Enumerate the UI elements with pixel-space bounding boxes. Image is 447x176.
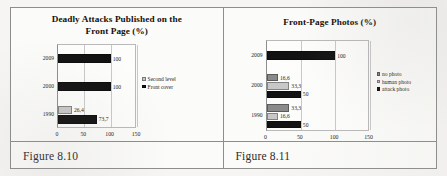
y-axis-tick-label: 2000: [237, 82, 263, 88]
x-axis-tick-label: 100: [324, 134, 344, 140]
bar-row: 50: [267, 121, 368, 128]
legend-swatch-icon: [377, 80, 381, 84]
legend-swatch-icon: [377, 87, 381, 91]
bar-row: 100: [58, 82, 135, 91]
chart-title-line: Deadly Attacks Published on the: [17, 14, 217, 26]
bar-value-label: 50: [301, 122, 309, 128]
bar-group: 100: [267, 41, 368, 71]
bar-row: 26,4: [58, 106, 135, 115]
bar-group: 100: [58, 73, 135, 101]
legend-label: Second level: [148, 76, 176, 82]
bar-value-label: 16,6: [278, 113, 290, 119]
x-axis-tick-label: 50: [290, 134, 310, 140]
y-axis-tick-label: 2009: [237, 52, 263, 58]
chart-front-page-photos: Front-Page Photos (%)10016,633,35033,316…: [224, 8, 437, 141]
legend-item[interactable]: human photo: [377, 79, 411, 85]
x-axis-tick-label: 100: [100, 131, 120, 137]
legend: no photohuman photoattack photo: [377, 71, 411, 92]
bar-value-label: 50: [301, 91, 309, 97]
bar-row: 50: [267, 91, 368, 98]
legend-label: no photo: [382, 71, 401, 77]
bar-value-label: 100: [111, 84, 121, 90]
x-axis-tick-label: 50: [73, 131, 93, 137]
legend-swatch-icon: [142, 77, 146, 81]
bar[interactable]: [267, 104, 290, 111]
x-axis-tick-label: 0: [256, 134, 276, 140]
legend-label: attack photo: [382, 86, 409, 92]
bar-group: 26,473,7: [58, 101, 135, 129]
y-axis-tick-label: 2000: [28, 83, 54, 89]
y-axis-tick-label: 1990: [28, 111, 54, 117]
figure-cell-right: Front-Page Photos (%)10016,633,35033,316…: [224, 8, 437, 141]
bar-group: 16,633,350: [267, 71, 368, 101]
bar[interactable]: [58, 54, 111, 63]
legend: Second levelFront cover: [142, 76, 176, 90]
bar-row: 33,3: [267, 104, 368, 111]
caption-figure-8-11: Figure 8.11: [224, 142, 437, 169]
bar-value-label: 26,4: [72, 107, 84, 113]
bar-group: 100: [58, 45, 135, 73]
gridline: [370, 41, 371, 130]
figure-cell-left: Deadly Attacks Published on theFront Pag…: [11, 8, 224, 141]
chart-title-line: Front-Page Photos (%): [230, 17, 431, 29]
bar-row: 33,3: [267, 82, 368, 89]
bar[interactable]: [267, 91, 301, 98]
bar-row: 16,6: [267, 74, 368, 81]
bar[interactable]: [267, 51, 336, 60]
x-axis-tick-label: 0: [47, 131, 67, 137]
bar[interactable]: [58, 106, 72, 115]
y-axis-tick-label: 1990: [237, 112, 263, 118]
scanned-page: Deadly Attacks Published on theFront Pag…: [0, 0, 447, 176]
legend-item[interactable]: Second level: [142, 76, 176, 82]
figure-table: Deadly Attacks Published on theFront Pag…: [10, 7, 437, 169]
bar[interactable]: [267, 82, 290, 89]
bar-row: 100: [267, 51, 368, 60]
bar[interactable]: [58, 115, 97, 124]
bar-value-label: 16,6: [278, 75, 290, 81]
y-axis-tick-label: 2009: [28, 55, 54, 61]
bar-row: 73,7: [58, 115, 135, 124]
x-axis-tick-label: 150: [359, 134, 379, 140]
bar-value-label: 100: [111, 56, 121, 62]
bar-value-label: 33,3: [289, 105, 301, 111]
chart-title-line: Front Page (%): [17, 26, 217, 38]
bar[interactable]: [267, 121, 301, 128]
bar-value-label: 33,3: [289, 83, 301, 89]
chart-title: Front-Page Photos (%): [230, 17, 431, 29]
bar-group: 33,316,650: [267, 102, 368, 132]
bar-row: 100: [58, 54, 135, 63]
plot-area: 10016,633,35033,316,650: [266, 40, 369, 131]
legend-swatch-icon: [377, 72, 381, 76]
chart-title: Deadly Attacks Published on theFront Pag…: [17, 14, 217, 37]
bar[interactable]: [267, 74, 278, 81]
legend-label: Front cover: [148, 84, 174, 90]
captions-row: Figure 8.10 Figure 8.11: [11, 141, 436, 169]
legend-item[interactable]: Front cover: [142, 84, 176, 90]
chart-deadly-attacks: Deadly Attacks Published on theFront Pag…: [11, 8, 223, 141]
legend-swatch-icon: [142, 85, 146, 89]
bar-value-label: 100: [335, 53, 345, 59]
bar[interactable]: [267, 113, 278, 120]
bar-row: 16,6: [267, 113, 368, 120]
charts-row: Deadly Attacks Published on theFront Pag…: [11, 8, 436, 141]
gridline: [137, 45, 138, 127]
caption-figure-8-10: Figure 8.10: [11, 142, 224, 169]
bar[interactable]: [58, 82, 111, 91]
bar-value-label: 73,7: [97, 116, 109, 122]
legend-item[interactable]: no photo: [377, 71, 411, 77]
plot-area: 10010026,473,7: [57, 44, 136, 128]
legend-item[interactable]: attack photo: [377, 86, 411, 92]
legend-label: human photo: [382, 79, 411, 85]
x-axis-tick-label: 150: [126, 131, 146, 137]
